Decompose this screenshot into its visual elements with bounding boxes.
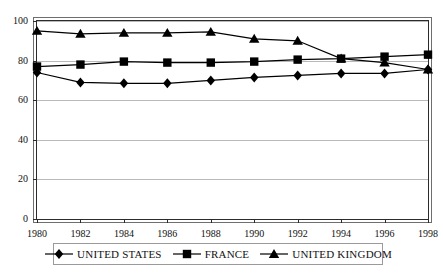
diamond-marker (163, 78, 171, 88)
x-axis-tick-mark (80, 219, 81, 223)
x-axis-tick-label: 1996 (362, 228, 408, 239)
x-axis-tick-label: 1988 (188, 228, 234, 239)
x-axis-tick-mark (211, 219, 212, 223)
diamond-marker (76, 77, 85, 87)
x-axis-tick-mark (298, 219, 299, 223)
square-marker (207, 58, 215, 66)
x-axis-tick-mark (37, 219, 38, 223)
diamond-marker (120, 78, 129, 88)
x-axis-tick-label: 1992 (275, 228, 321, 239)
x-axis-tick-mark (341, 219, 342, 223)
y-axis-tick-mark (33, 140, 37, 141)
legend-marker-triangle (259, 248, 289, 260)
series-france (33, 50, 432, 70)
diamond-marker (250, 72, 259, 82)
y-axis-tick-mark (33, 179, 37, 180)
series-united-kingdom (32, 26, 433, 74)
x-axis-tick-label: 1986 (144, 228, 190, 239)
series-line (37, 70, 428, 84)
square-marker (250, 57, 258, 65)
diamond-marker (207, 75, 216, 85)
y-axis-tick-label: 100 (2, 16, 28, 26)
x-axis-tick-mark (428, 219, 429, 223)
legend-item-united-kingdom[interactable]: UNITED KINGDOM (254, 248, 397, 260)
x-axis-tick-mark (167, 219, 168, 223)
square-marker (120, 57, 128, 65)
diamond-marker (55, 249, 64, 259)
x-axis-tick-label: 1984 (101, 228, 147, 239)
triangle-marker (206, 27, 216, 36)
y-axis-tick-mark (33, 100, 37, 101)
plot-inner (37, 21, 428, 219)
square-marker (293, 55, 301, 63)
x-axis-tick-label: 1980 (14, 228, 60, 239)
y-axis-tick-label: 60 (2, 95, 28, 105)
square-marker (182, 250, 190, 258)
diamond-marker (380, 68, 389, 78)
y-axis-tick-label: 40 (2, 135, 28, 145)
chart-legend: UNITED STATESFRANCEUNITED KINGDOM (53, 243, 383, 265)
diamond-marker (337, 68, 346, 78)
x-axis-tick-label: 1990 (231, 228, 277, 239)
y-axis-tick-label: 0 (2, 214, 28, 224)
legend-marker-square (172, 248, 202, 260)
x-axis-tick-label: 1998 (405, 228, 443, 239)
legend-label: FRANCE (202, 249, 250, 260)
x-axis-tick-mark (385, 219, 386, 223)
series-layer (37, 21, 428, 219)
square-marker (163, 58, 171, 66)
y-axis-tick-label: 20 (2, 174, 28, 184)
diamond-marker (293, 70, 302, 80)
legend-marker-diamond (44, 248, 74, 260)
x-axis-tick-label: 1994 (318, 228, 364, 239)
legend-item-united-states[interactable]: UNITED STATES (39, 248, 167, 260)
x-axis-tick-mark (254, 219, 255, 223)
legend-label: UNITED KINGDOM (289, 249, 392, 260)
square-marker (33, 62, 41, 70)
y-axis-tick-mark (33, 61, 37, 62)
y-axis-tick-label: 80 (2, 56, 28, 66)
y-axis-tick-mark (33, 21, 37, 22)
x-axis-tick-mark (124, 219, 125, 223)
square-marker (424, 50, 432, 58)
x-axis-tick-label: 1982 (57, 228, 103, 239)
square-marker (76, 60, 84, 68)
plot-area (36, 20, 429, 220)
legend-item-france[interactable]: FRANCE (167, 248, 255, 260)
series-united-states (33, 65, 433, 89)
legend-label: UNITED STATES (74, 249, 162, 260)
